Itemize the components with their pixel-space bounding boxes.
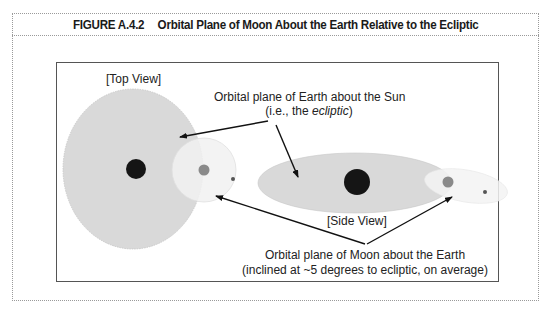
earth-icon: [443, 177, 454, 188]
moon-orbit-label: Orbital plane of Moon about the Earth (i…: [205, 248, 525, 278]
moon-icon: [231, 177, 235, 181]
moon-orbit-label-line2: (inclined at ~5 degrees to ecliptic, on …: [205, 263, 525, 278]
earth-icon: [199, 165, 210, 176]
sun-icon: [126, 159, 146, 179]
moon-orbit-label-line1: Orbital plane of Moon about the Earth: [205, 248, 525, 263]
ecliptic-label-line2: (i.e., the ecliptic): [214, 104, 404, 118]
moon-icon: [483, 190, 487, 194]
side-view: [258, 153, 510, 213]
top-view: [63, 89, 236, 249]
side-view-label: [Side View]: [327, 214, 387, 228]
ecliptic-label-line1: Orbital plane of Earth about the Sun: [214, 90, 404, 104]
top-view-label: [Top View]: [106, 72, 161, 86]
ecliptic-label: Orbital plane of Earth about the Sun (i.…: [214, 90, 404, 118]
sun-icon: [344, 169, 370, 195]
ecliptic-term: ecliptic: [312, 104, 349, 118]
